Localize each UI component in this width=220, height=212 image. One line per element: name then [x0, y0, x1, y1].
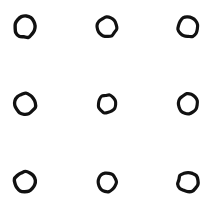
circle-mark-r1-c3: top right circle [175, 15, 200, 40]
circle-grid-svg: top left circletop center circletop righ… [0, 0, 220, 212]
circle-mark-r2-c3: middle right circle [177, 93, 198, 115]
circle-marks-group: top left circletop center circletop righ… [12, 15, 201, 195]
circle-mark-r1-c1: top left circle [14, 15, 36, 39]
circle-mark-r2-c1: middle left circle [12, 90, 39, 117]
circle-mark-r3-c1: bottom left circle [13, 170, 37, 194]
circle-mark-r3-c2: bottom center circle [95, 170, 119, 195]
circle-mark-r2-c2: middle center circle [95, 92, 118, 115]
circle-mark-r1-c2: top center circle [95, 15, 118, 38]
nine-dot-figure: Nine circles arranged in a 3 by 3 grid t… [0, 0, 220, 212]
circle-mark-r3-c3: bottom right circle [176, 170, 200, 193]
